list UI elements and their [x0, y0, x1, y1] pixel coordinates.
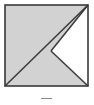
caption-rule [41, 98, 52, 99]
figure-container [0, 0, 94, 105]
geometric-figure [0, 0, 94, 105]
